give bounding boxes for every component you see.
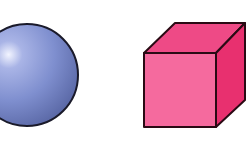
sphere-shape [0, 24, 78, 126]
cube-shape [144, 23, 245, 127]
scene [0, 0, 248, 147]
cube-front-face [144, 53, 216, 127]
